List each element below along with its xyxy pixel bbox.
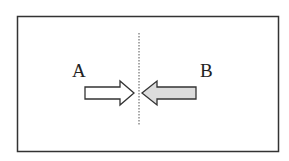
arrow-a-right-icon [85, 81, 134, 105]
label-b: B [200, 61, 213, 80]
label-a: A [72, 61, 86, 80]
diagram-frame [18, 17, 279, 152]
arrow-b-left-icon [142, 81, 196, 105]
diagram-svg [0, 0, 289, 161]
force-diagram: A B [0, 0, 289, 161]
